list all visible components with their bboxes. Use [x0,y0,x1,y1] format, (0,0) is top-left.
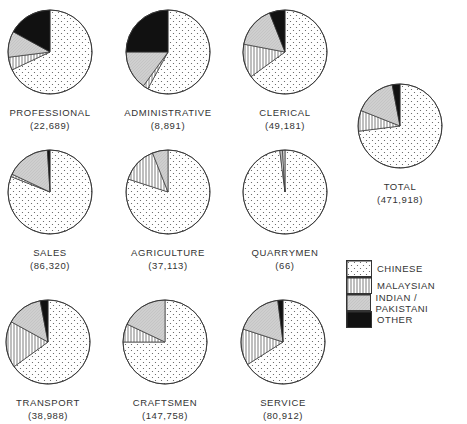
pie-chart [356,82,444,170]
pie-total-count: (22,689) [0,119,110,132]
legend: CHINESE MALAYSIAN INDIAN / PAKISTANI OTH… [346,260,467,328]
pie-chart [6,148,94,236]
pie-title: TOTAL [340,180,460,193]
grey-swatch-icon [346,294,371,311]
pie-total-count: (86,320) [0,259,110,272]
pie-title: QUARRYMEN [225,246,345,259]
pie-title: PROFESSIONAL [0,106,110,119]
pie-chart [241,8,329,96]
pie-chart [241,148,329,236]
pie-sales: SALES(86,320) [0,148,110,272]
pie-title: CLERICAL [225,106,345,119]
pie-total-count: (80,912) [223,409,343,422]
pie-title: AGRICULTURE [108,246,228,259]
pie-administrative: ADMINISTRATIVE(8,891) [108,8,228,132]
legend-item-chinese: CHINESE [346,260,467,277]
pie-title: ADMINISTRATIVE [108,106,228,119]
pie-title: CRAFTSMEN [105,396,225,409]
pie-clerical: CLERICAL(49,181) [225,8,345,132]
legend-item-indian-pakistani: INDIAN / PAKISTANI [346,294,467,311]
pie-craftsmen: CRAFTSMEN(147,758) [105,298,225,422]
pie-agriculture: AGRICULTURE(37,113) [108,148,228,272]
pie-chart [124,148,212,236]
legend-item-other: OTHER [346,311,467,328]
pie-title: SALES [0,246,110,259]
pie-chart [121,298,209,386]
pie-chart [239,298,327,386]
pie-service: SERVICE(80,912) [223,298,343,422]
pie-chart [4,298,92,386]
pie-chart [6,8,94,96]
pie-slice-black [126,10,168,52]
pie-total-count: (471,918) [340,193,460,206]
pie-quarrymen: QUARRYMEN(66) [225,148,345,272]
pie-total-count: (8,891) [108,119,228,132]
pie-title: TRANSPORT [0,396,108,409]
pie-transport: TRANSPORT(38,988) [0,298,108,422]
pie-title: SERVICE [223,396,343,409]
pie-total-count: (38,988) [0,409,108,422]
pie-total-count: (37,113) [108,259,228,272]
pie-professional: PROFESSIONAL(22,689) [0,8,110,132]
legend-label: MALAYSIAN [377,280,435,291]
vertical-lines-swatch-icon [346,277,372,294]
pie-chart [124,8,212,96]
dots-swatch-icon [346,260,372,277]
pie-total-count: (49,181) [225,119,345,132]
black-swatch-icon [346,311,372,328]
legend-label: INDIAN / PAKISTANI [376,292,467,314]
legend-label: OTHER [377,314,413,325]
pie-total: TOTAL(471,918) [340,82,460,206]
pie-total-count: (66) [225,259,345,272]
pie-total-count: (147,758) [105,409,225,422]
legend-label: CHINESE [377,263,423,274]
